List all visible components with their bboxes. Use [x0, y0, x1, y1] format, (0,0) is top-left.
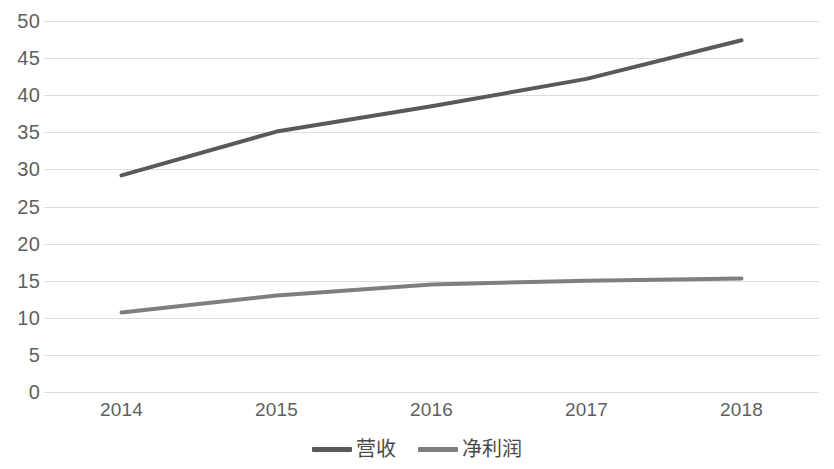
legend-swatch-icon — [418, 447, 458, 452]
plot-area — [44, 21, 819, 392]
y-axis-tick-label: 25 — [2, 197, 40, 217]
y-axis-tick-label: 40 — [2, 85, 40, 105]
chart-legend: 营收净利润 — [0, 438, 834, 460]
legend-swatch-icon — [312, 447, 352, 452]
y-axis-tick-label: 35 — [2, 122, 40, 142]
chart-series-layer — [44, 21, 819, 392]
y-axis-tick-label: 30 — [2, 159, 40, 179]
y-axis-tick-label: 0 — [2, 382, 40, 402]
series-line — [122, 40, 742, 175]
y-axis-tick-label: 50 — [2, 11, 40, 31]
legend-label: 营收 — [356, 438, 396, 460]
y-axis-tick-label: 10 — [2, 308, 40, 328]
x-axis: 20142015201620172018 — [44, 398, 819, 428]
legend-item[interactable]: 营收 — [312, 438, 396, 460]
x-axis-tick-label: 2018 — [720, 398, 763, 422]
gridline — [44, 392, 819, 393]
y-axis-tick-label: 45 — [2, 48, 40, 68]
x-axis-tick-label: 2015 — [255, 398, 298, 422]
y-axis: 05101520253035404550 — [0, 0, 40, 413]
line-chart: 05101520253035404550 2014201520162017201… — [0, 0, 834, 469]
y-axis-tick-label: 5 — [2, 345, 40, 365]
x-axis-tick-label: 2016 — [410, 398, 453, 422]
y-axis-tick-label: 20 — [2, 234, 40, 254]
x-axis-tick-label: 2014 — [100, 398, 143, 422]
x-axis-tick-label: 2017 — [565, 398, 608, 422]
legend-label: 净利润 — [462, 438, 522, 460]
series-line — [122, 278, 742, 312]
y-axis-tick-label: 15 — [2, 271, 40, 291]
legend-item[interactable]: 净利润 — [418, 438, 522, 460]
